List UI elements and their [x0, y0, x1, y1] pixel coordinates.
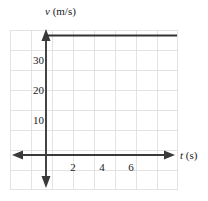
x-tick-label-4: 4 — [94, 162, 110, 173]
x-axis-title: t (s) — [180, 150, 197, 161]
velocity-time-graph-figure: v (m/s) t (s) 30 20 10 2 4 6 — [0, 0, 208, 201]
y-tick-label-10: 10 — [22, 115, 44, 126]
y-tick-label-20: 20 — [22, 85, 44, 96]
time-axis-right-arrowhead — [164, 151, 175, 160]
x-axis-unit: (s) — [186, 149, 198, 161]
time-axis — [12, 151, 175, 160]
velocity-axis — [42, 29, 51, 188]
y-axis-unit: (m/s) — [53, 5, 76, 17]
x-tick-label-2: 2 — [65, 162, 81, 173]
y-tick-label-30: 30 — [22, 55, 44, 66]
time-axis-left-arrowhead — [12, 151, 23, 160]
velocity-axis-down-arrowhead — [42, 176, 51, 188]
y-axis-title: v (m/s) — [45, 6, 76, 17]
x-tick-label-6: 6 — [123, 162, 139, 173]
